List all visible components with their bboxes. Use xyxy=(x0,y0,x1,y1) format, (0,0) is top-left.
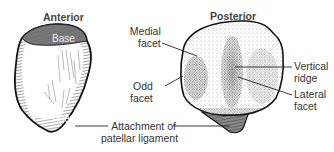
posterior-patella-drawing xyxy=(178,18,288,133)
label-medial-facet-line2: facet xyxy=(129,37,161,49)
label-vertical-ridge-line1: Vertical xyxy=(294,60,328,72)
label-vertical-ridge-line2: ridge xyxy=(294,72,328,84)
label-base: Base xyxy=(52,33,75,45)
label-odd-facet: Odd facet xyxy=(130,80,153,104)
label-patellar-ligament: Attachment of patellar ligament xyxy=(101,120,178,144)
label-odd-facet-line2: facet xyxy=(130,92,153,104)
label-patellar-ligament-line2: patellar ligament xyxy=(101,132,178,144)
label-odd-facet-line1: Odd xyxy=(130,80,153,92)
label-lateral-facet-line1: Lateral xyxy=(294,88,326,100)
label-medial-facet: Medial facet xyxy=(129,25,161,49)
label-lateral-facet: Lateral facet xyxy=(294,88,326,112)
label-apex: Apex xyxy=(52,113,75,125)
label-lateral-facet-line2: facet xyxy=(294,100,326,112)
label-medial-facet-line1: Medial xyxy=(129,25,161,37)
posterior-title: Posterior xyxy=(210,10,256,22)
label-vertical-ridge: Vertical ridge xyxy=(294,60,328,84)
label-patellar-ligament-line1: Attachment of xyxy=(101,120,178,132)
anterior-title: Anterior xyxy=(43,11,84,23)
